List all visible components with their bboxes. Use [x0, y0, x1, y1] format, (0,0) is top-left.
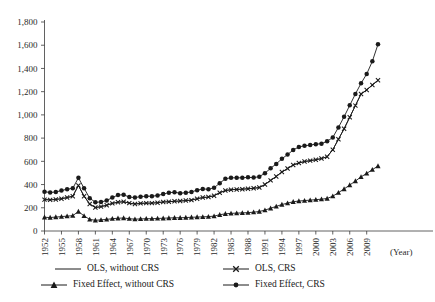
- x-axis-tick-label: 1988: [243, 238, 253, 257]
- data-series-group: [42, 42, 381, 222]
- data-point-marker: [189, 190, 194, 195]
- x-axis-tick-label: 1964: [108, 238, 118, 257]
- x-axis-tick-label: 1973: [159, 238, 169, 257]
- data-point-marker: [99, 200, 104, 205]
- x-axis-tick-label: 1952: [40, 238, 50, 256]
- data-point-marker: [184, 190, 189, 195]
- legend-label: Fixed Effect, CRS: [255, 279, 325, 290]
- data-point-marker: [269, 178, 273, 182]
- data-point-marker: [370, 167, 375, 172]
- data-point-marker: [358, 174, 363, 179]
- data-point-marker: [325, 155, 329, 159]
- y-axis-tick-label: 800: [24, 133, 38, 143]
- data-point-marker: [138, 194, 143, 199]
- data-point-marker: [76, 183, 80, 187]
- data-point-marker: [144, 194, 149, 199]
- legend-label: OLS, without CRS: [87, 263, 159, 274]
- data-point-marker: [116, 193, 121, 198]
- data-point-marker: [336, 137, 340, 141]
- x-axis-tick-label: 1979: [192, 238, 202, 257]
- x-axis-tick-label: 1997: [294, 238, 304, 257]
- x-axis-tick-label: 1994: [277, 238, 287, 257]
- series-line: [45, 44, 379, 202]
- data-point-marker: [201, 187, 206, 192]
- x-axis-tick-label: 1961: [91, 238, 101, 256]
- legend-label: OLS, CRS: [255, 263, 296, 274]
- data-point-marker: [325, 139, 330, 144]
- data-point-marker: [353, 178, 358, 183]
- y-axis-tick-label: 400: [24, 180, 38, 190]
- data-point-marker: [155, 193, 160, 198]
- y-axis-tick-label: 600: [24, 157, 38, 167]
- data-point-marker: [347, 182, 352, 187]
- data-point-marker: [331, 148, 335, 152]
- x-axis-unit-label: (Year): [390, 247, 413, 257]
- legend-swatch-line-triangle-marker: [40, 280, 68, 290]
- data-point-marker: [342, 115, 347, 120]
- data-point-marker: [376, 42, 381, 47]
- data-point-marker: [133, 195, 138, 200]
- data-point-marker: [42, 190, 47, 195]
- data-point-marker: [82, 194, 86, 198]
- x-axis-tick-label: 1958: [74, 238, 84, 257]
- x-axis-tick-label: 2009: [362, 238, 372, 257]
- data-point-marker: [353, 104, 357, 108]
- data-point-marker: [359, 92, 363, 96]
- data-point-marker: [76, 176, 81, 181]
- data-point-marker: [217, 181, 222, 186]
- data-point-marker: [348, 115, 352, 119]
- y-axis-tick-label: 200: [24, 203, 38, 213]
- y-axis-tick-label: 1,400: [17, 64, 38, 74]
- data-point-marker: [336, 190, 341, 195]
- data-point-marker: [347, 103, 352, 108]
- data-point-marker: [268, 166, 273, 171]
- data-point-marker: [280, 157, 285, 162]
- data-point-marker: [65, 187, 70, 192]
- data-point-marker: [285, 152, 290, 157]
- data-point-marker: [234, 176, 239, 181]
- data-point-marker: [353, 92, 358, 97]
- data-point-marker: [212, 186, 217, 191]
- data-point-marker: [263, 182, 267, 186]
- x-axis-unit-text: (Year): [390, 247, 413, 257]
- data-point-marker: [88, 202, 92, 206]
- data-point-marker: [48, 190, 53, 195]
- data-point-marker: [150, 194, 155, 199]
- data-point-marker: [365, 88, 369, 92]
- data-point-marker: [274, 174, 278, 178]
- data-point-marker: [359, 81, 364, 86]
- data-point-marker: [364, 171, 369, 176]
- x-axis-tick-label: 2003: [328, 238, 338, 257]
- data-point-marker: [257, 174, 262, 179]
- y-axis-tick-labels: 02004006008001,0001,2001,4001,6001,800: [17, 17, 38, 236]
- legend-item-fixed-effect-crs: Fixed Effect, CRS: [222, 279, 325, 290]
- legend-item-ols-crs: OLS, CRS: [222, 263, 296, 274]
- data-point-marker: [76, 209, 81, 214]
- x-axis-tick-label: 1970: [142, 238, 152, 257]
- legend-swatch-line-circle-marker: [222, 280, 250, 290]
- data-point-marker: [331, 135, 336, 140]
- data-point-marker: [167, 190, 172, 195]
- data-point-marker: [195, 188, 200, 193]
- x-axis-tick-label: 2006: [345, 238, 355, 257]
- data-point-marker: [240, 176, 245, 181]
- data-point-marker: [206, 187, 211, 192]
- data-point-marker: [263, 171, 268, 176]
- data-point-marker: [110, 195, 115, 200]
- x-axis-tick-label: 2000: [311, 238, 321, 257]
- data-point-marker: [308, 143, 313, 148]
- y-axis-tick-label: 1,800: [17, 17, 38, 27]
- data-point-marker: [285, 166, 289, 170]
- data-point-marker: [370, 83, 374, 87]
- series-fixed-effect-without-crs: [42, 163, 381, 222]
- data-point-marker: [93, 200, 98, 205]
- legend-item-fixed-effect-without-crs: Fixed Effect, without CRS: [40, 279, 174, 290]
- legend-swatch-line-x-marker: [222, 264, 250, 274]
- data-point-marker: [342, 186, 347, 191]
- data-point-marker: [87, 217, 92, 222]
- data-point-marker: [280, 170, 284, 174]
- x-axis-tick-label: 1955: [57, 238, 67, 257]
- y-axis-tick-label: 1,200: [17, 87, 38, 97]
- data-point-marker: [274, 162, 279, 167]
- legend-swatch-line: [54, 264, 82, 274]
